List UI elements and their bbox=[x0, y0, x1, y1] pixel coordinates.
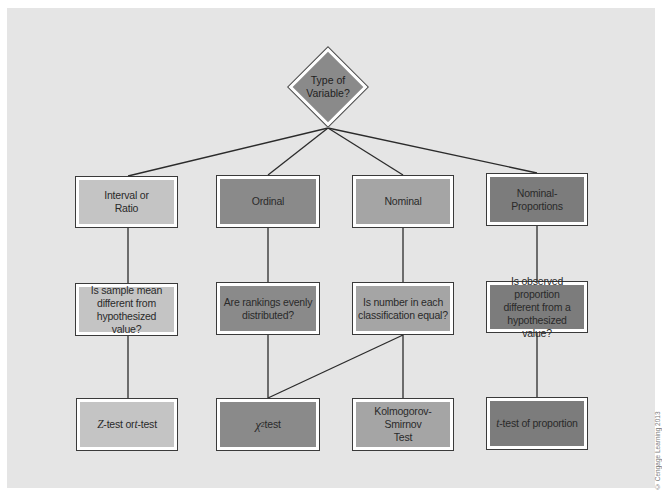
root-decision-label: Type of Variable? bbox=[287, 46, 369, 128]
category-interval-ratio: Interval or Ratio bbox=[75, 176, 178, 228]
question-rankings-label: Are rankings evenly distributed? bbox=[220, 286, 316, 331]
category-ordinal: Ordinal bbox=[216, 175, 320, 228]
test-z-or-t-label: Z-test or t-test bbox=[80, 402, 174, 447]
category-nominal-label: Nominal bbox=[356, 179, 450, 224]
question-rankings: Are rankings evenly distributed? bbox=[216, 282, 320, 335]
test-t-proportion: t-test of proportion bbox=[486, 397, 588, 450]
question-sample-mean-label: Is sample mean different from hypothesiz… bbox=[79, 287, 174, 332]
category-ordinal-label: Ordinal bbox=[220, 179, 316, 224]
test-chi-square-suffix: test bbox=[265, 418, 281, 431]
question-sample-mean: Is sample mean different from hypothesiz… bbox=[75, 283, 178, 336]
test-z-or-t-suffix: -test bbox=[137, 418, 156, 431]
flowchart-canvas: Type of Variable? Interval or Ratio Ordi… bbox=[0, 0, 670, 492]
category-interval-ratio-label: Interval or Ratio bbox=[79, 180, 174, 224]
test-kolmogorov-smirnov: Kolmogorov-Smirnov Test bbox=[352, 398, 454, 451]
question-classification-label: Is number in each classification equal? bbox=[356, 286, 450, 331]
test-z-or-t-middle: -test or bbox=[103, 418, 134, 431]
category-nominal: Nominal bbox=[352, 175, 454, 228]
question-classification: Is number in each classification equal? bbox=[352, 282, 454, 335]
test-z-or-t: Z-test or t-test bbox=[76, 398, 178, 451]
question-observed-proportion-label: Is observed proportion different from a … bbox=[490, 285, 584, 329]
test-chi-square-label: χ2 test bbox=[220, 402, 316, 447]
test-t-proportion-label: t-test of proportion bbox=[490, 401, 584, 446]
category-nominal-proportions: Nominal- Proportions bbox=[486, 173, 588, 226]
question-observed-proportion: Is observed proportion different from a … bbox=[486, 281, 588, 333]
category-nominal-proportions-label: Nominal- Proportions bbox=[490, 177, 584, 222]
root-decision-diamond: Type of Variable? bbox=[287, 46, 369, 128]
test-t-proportion-suffix: -test of proportion bbox=[499, 417, 578, 430]
test-kolmogorov-smirnov-label: Kolmogorov-Smirnov Test bbox=[356, 402, 450, 447]
test-chi-square: χ2 test bbox=[216, 398, 320, 451]
copyright-notice: © Cengage Learning 2013 bbox=[654, 420, 668, 490]
